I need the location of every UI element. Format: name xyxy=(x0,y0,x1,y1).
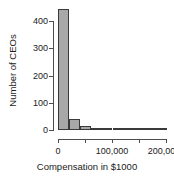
x-axis-tick-label-100000: 100,000 xyxy=(96,146,129,156)
plot-area xyxy=(58,8,167,130)
x-axis-tick-label-0: 0 xyxy=(55,146,60,156)
y-axis-tick-label-200: 200 xyxy=(33,72,48,81)
bar-bin-3 xyxy=(91,128,102,130)
x-axis-tick-label-200000: 200,000 xyxy=(148,146,174,156)
bar-bin-0 xyxy=(58,9,69,130)
x-axis-title: Compensation in $1000 xyxy=(0,161,174,172)
y-axis-tick-400 xyxy=(49,21,53,22)
x-axis-tick-200000 xyxy=(166,139,167,143)
y-axis-tick-label-400: 400 xyxy=(33,17,48,26)
y-axis-tick-label-100: 100 xyxy=(33,99,48,108)
bar-bin-5 xyxy=(113,128,124,130)
y-axis-line xyxy=(53,21,54,131)
bar-bin-7 xyxy=(134,128,145,130)
bar-bin-4 xyxy=(102,128,113,130)
y-axis-tick-300 xyxy=(49,48,53,49)
x-axis-tick-150000 xyxy=(139,139,140,143)
histogram-figure: 400 300 200 100 0 Number of CEOs 0 100,0… xyxy=(0,0,174,188)
bar-bin-8 xyxy=(145,128,156,130)
y-axis-tick-200 xyxy=(49,76,53,77)
x-axis-tick-100000 xyxy=(112,139,113,143)
x-axis-tick-50000 xyxy=(85,139,86,143)
bar-bin-2 xyxy=(80,126,91,130)
y-axis-tick-label-0: 0 xyxy=(43,126,48,135)
bar-bin-1 xyxy=(69,119,80,130)
x-axis-tick-0 xyxy=(58,139,59,143)
bar-bin-6 xyxy=(123,128,134,130)
y-axis-tick-label-300: 300 xyxy=(33,44,48,53)
y-axis-tick-100 xyxy=(49,103,53,104)
y-axis-title: Number of CEOs xyxy=(7,16,18,126)
bar-bin-9 xyxy=(156,128,167,130)
y-axis-tick-0 xyxy=(49,130,53,131)
